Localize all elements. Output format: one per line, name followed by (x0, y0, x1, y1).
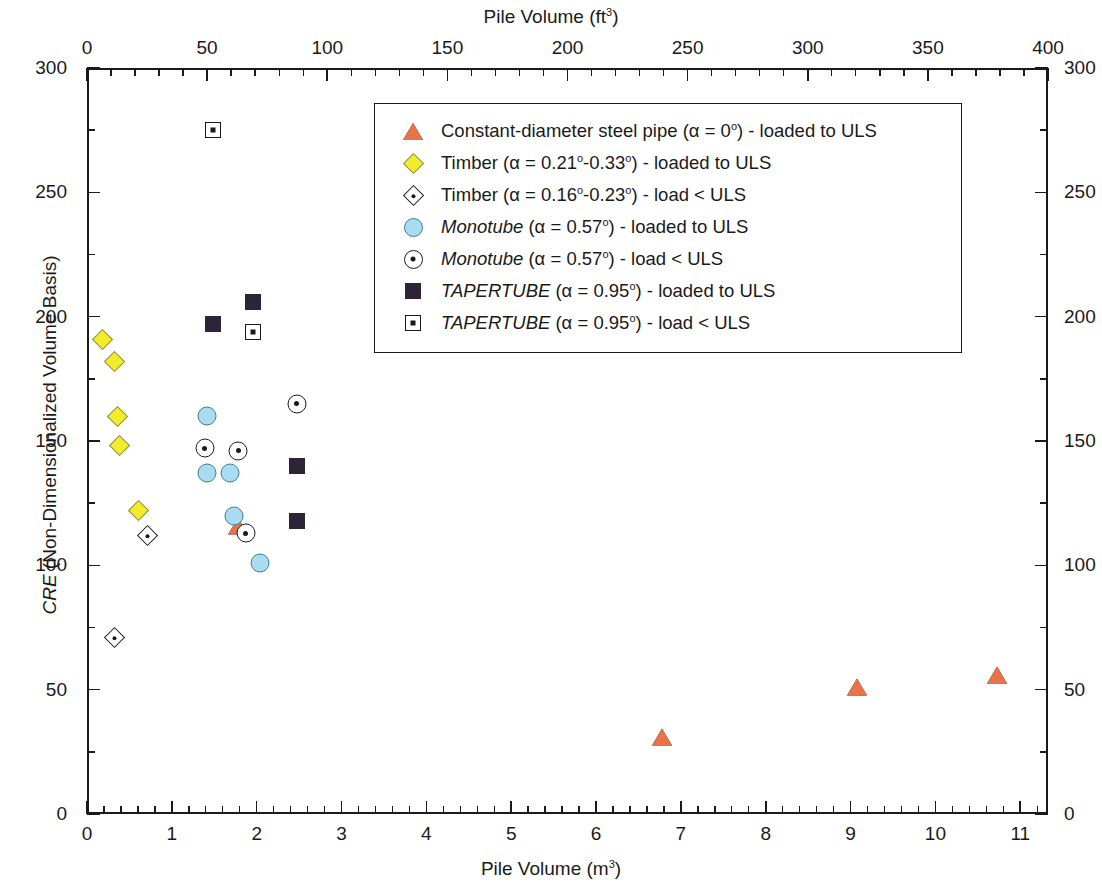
marker-square-dot (245, 324, 261, 340)
axis-tick (901, 806, 902, 814)
axis-tick (612, 806, 613, 814)
x-tick-label-top-400: 400 (1032, 37, 1064, 59)
axis-tick (256, 801, 258, 814)
axis-tick (615, 68, 616, 76)
axis-tick (326, 68, 328, 81)
axis-tick (918, 806, 919, 814)
x-tick-label-bottom-0: 0 (82, 823, 93, 845)
y-tick-label-left-100: 100 (0, 554, 67, 576)
axis-tick (171, 801, 173, 814)
x-tick-label-bottom-3: 3 (336, 823, 347, 845)
legend-label-5: TAPERTUBE (α = 0.95o) - loaded to ULS (441, 280, 775, 302)
marker-circle (224, 506, 243, 525)
axis-tick (103, 806, 104, 814)
y-tick-label-right-50: 50 (1064, 679, 1085, 701)
axis-tick (867, 806, 868, 814)
axis-tick (1035, 67, 1048, 69)
legend-marker-1 (385, 156, 441, 171)
marker-center-dot (294, 401, 299, 406)
axis-tick (137, 806, 138, 814)
data-point (289, 458, 305, 474)
axis-tick (735, 68, 736, 76)
axis-tick (927, 68, 929, 81)
data-point (205, 122, 221, 138)
axis-tick (1040, 751, 1048, 752)
axis-tick (884, 806, 885, 814)
legend-item-2: Timber (α = 0.16o-0.23o) - load < ULS (385, 179, 951, 211)
axis-tick (158, 68, 159, 76)
marker-triangle (652, 728, 672, 745)
legend-item-5: TAPERTUBE (α = 0.95o) - loaded to ULS (385, 275, 951, 307)
axis-tick (87, 440, 100, 442)
y-tick-label-right-100: 100 (1064, 554, 1096, 576)
axis-tick (639, 68, 640, 76)
axis-tick (443, 806, 444, 814)
axis-tick (188, 806, 189, 814)
axis-tick (87, 129, 95, 130)
axis-tick (855, 68, 856, 76)
axis-tick (447, 68, 449, 81)
axis-tick (831, 68, 832, 76)
axis-tick (1035, 440, 1048, 442)
y-tick-label-right-250: 250 (1064, 181, 1096, 203)
axis-tick (303, 68, 304, 76)
axis-tick (731, 806, 732, 814)
x-tick-label-bottom-1: 1 (167, 823, 178, 845)
axis-tick (1040, 254, 1048, 255)
legend-label-1: Timber (α = 0.21o-0.33o) - loaded to ULS (441, 152, 771, 174)
marker-diamond (402, 152, 423, 173)
marker-circle-dot (195, 439, 214, 458)
axis-tick (494, 806, 495, 814)
marker-square (405, 283, 421, 299)
axis-tick (1019, 801, 1021, 814)
axis-tick (850, 801, 852, 814)
axis-tick (358, 806, 359, 814)
y-tick-label-left-200: 200 (0, 306, 67, 328)
data-point (221, 464, 240, 483)
y-tick-label-right-300: 300 (1064, 57, 1096, 79)
axis-tick (182, 68, 183, 76)
axis-tick (999, 68, 1000, 76)
data-point (652, 728, 672, 745)
axis-tick (87, 502, 95, 503)
legend-label-3: Monotube (α = 0.57o) - loaded to ULS (441, 216, 748, 238)
marker-circle (198, 407, 217, 426)
axis-tick (87, 192, 100, 194)
x-tick-label-bottom-11: 11 (1010, 823, 1030, 845)
axis-tick (120, 806, 121, 814)
axis-tick (460, 806, 461, 814)
legend-item-0: Constant-diameter steel pipe (α = 0o) - … (385, 115, 951, 147)
axis-tick (697, 806, 698, 814)
axis-tick (1035, 813, 1048, 815)
data-point (198, 407, 217, 426)
axis-tick (510, 801, 512, 814)
data-point (245, 324, 261, 340)
axis-tick (399, 68, 400, 76)
data-point (251, 553, 270, 572)
x-tick-label-bottom-5: 5 (506, 823, 517, 845)
axis-tick (495, 68, 496, 76)
axis-tick (87, 67, 100, 69)
x-tick-label-top-50: 50 (197, 37, 218, 59)
data-point (118, 416, 133, 431)
axis-tick (519, 68, 520, 76)
axis-tick (816, 806, 817, 814)
data-point (119, 446, 134, 461)
axis-tick (426, 801, 428, 814)
axis-tick (935, 801, 937, 814)
marker-circle-dot (404, 250, 423, 269)
data-point (195, 439, 214, 458)
axis-tick (477, 806, 478, 814)
legend-item-4: Monotube (α = 0.57o) - load < ULS (385, 243, 951, 275)
axis-tick (392, 806, 393, 814)
axis-tick (799, 806, 800, 814)
axis-tick (86, 801, 88, 814)
marker-center-dot (243, 531, 248, 536)
x-tick-label-bottom-8: 8 (760, 823, 771, 845)
axis-tick (375, 806, 376, 814)
axis-tick (1035, 316, 1048, 318)
axis-tick (1035, 565, 1048, 567)
axis-tick (351, 68, 352, 76)
axis-tick (567, 68, 569, 81)
marker-center-dot (202, 446, 207, 451)
